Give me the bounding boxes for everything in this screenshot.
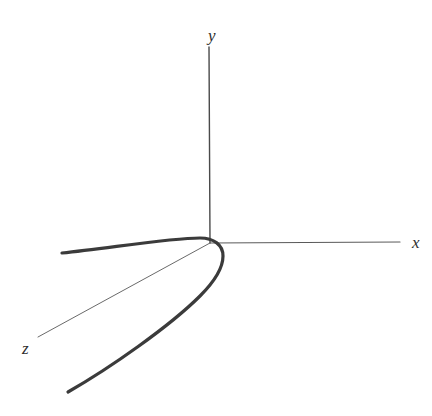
- z-axis-label: z: [22, 340, 29, 357]
- y-axis-label: y: [208, 27, 216, 44]
- y-axis-line: [209, 47, 210, 243]
- coordinate-axes-diagram: [0, 0, 432, 416]
- figure-background: [0, 0, 432, 416]
- x-axis-label: x: [412, 234, 420, 251]
- figure-canvas: y x z: [0, 0, 432, 416]
